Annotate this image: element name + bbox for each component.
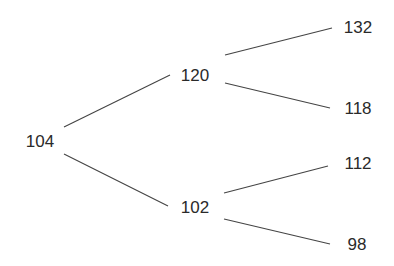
node-up: 120 bbox=[181, 66, 209, 85]
edge-down-downup bbox=[224, 166, 328, 193]
nodes: 104 120 102 132 118 112 98 bbox=[26, 18, 372, 254]
edge-up-upup bbox=[225, 28, 332, 55]
edge-up-updown bbox=[225, 83, 330, 108]
edge-root-down bbox=[64, 154, 168, 206]
node-root: 104 bbox=[26, 132, 54, 151]
edge-root-up bbox=[64, 75, 170, 127]
node-up-up: 132 bbox=[344, 18, 372, 37]
node-down-down: 98 bbox=[348, 235, 367, 254]
edge-down-downdown bbox=[224, 219, 330, 244]
node-down: 102 bbox=[181, 198, 209, 217]
node-down-up: 112 bbox=[344, 154, 371, 173]
binomial-tree: 104 120 102 132 118 112 98 bbox=[0, 0, 394, 266]
node-up-down: 118 bbox=[344, 99, 371, 118]
